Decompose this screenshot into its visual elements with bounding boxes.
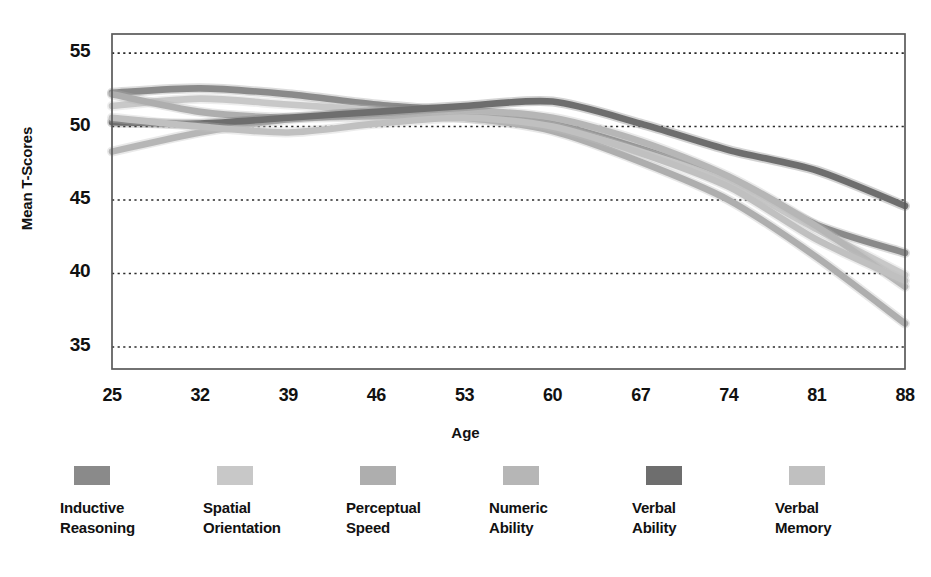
- plot-background: [112, 34, 905, 369]
- legend-swatch-numeric-ability: [503, 466, 539, 485]
- legend-swatch-spatial-orientation: [217, 466, 253, 485]
- legend-label-0: Inductive Reasoning: [60, 498, 135, 538]
- x-axis-title: Age: [0, 424, 931, 441]
- legend-swatch-verbal-memory: [789, 466, 825, 485]
- legend-item-verbal-ability: Verbal Ability: [632, 466, 775, 538]
- legend-item-verbal-memory: Verbal Memory: [775, 466, 918, 538]
- legend-swatch-verbal-ability: [646, 466, 682, 485]
- legend-swatch-inductive-reasoning: [74, 466, 110, 485]
- legend-swatch-perceptual-speed: [360, 466, 396, 485]
- legend-label-1: Spatial Orientation: [203, 498, 281, 538]
- legend-item-inductive-reasoning: Inductive Reasoning: [60, 466, 203, 538]
- legend-label-3: Numeric Ability: [489, 498, 548, 538]
- chart-legend: Inductive ReasoningSpatial OrientationPe…: [60, 466, 920, 538]
- legend-item-perceptual-speed: Perceptual Speed: [346, 466, 489, 538]
- legend-item-spatial-orientation: Spatial Orientation: [203, 466, 346, 538]
- chart-container: Mean T-Scores 3540455055 253239465360677…: [0, 0, 931, 577]
- legend-label-2: Perceptual Speed: [346, 498, 421, 538]
- legend-label-4: Verbal Ability: [632, 498, 676, 538]
- legend-item-numeric-ability: Numeric Ability: [489, 466, 632, 538]
- legend-label-5: Verbal Memory: [775, 498, 831, 538]
